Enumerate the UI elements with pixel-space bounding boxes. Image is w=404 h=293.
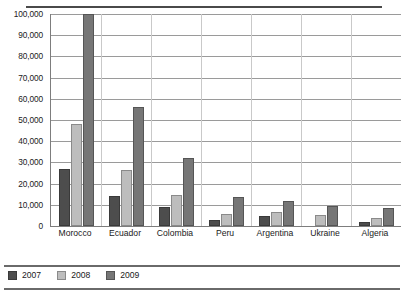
bar-argentina-2008[interactable]: [271, 212, 282, 226]
bar-morocco-2007[interactable]: [59, 169, 70, 226]
plot-area: [50, 14, 401, 227]
y-axis-tick-label: 40,000: [18, 136, 43, 146]
legend-swatch-icon-2007: [8, 271, 17, 280]
legend-label-2008: 2008: [71, 270, 90, 280]
y-axis-tick-label: 80,000: [18, 51, 43, 61]
x-axis-label-morocco: Morocco: [50, 228, 100, 238]
bar-colombia-2008[interactable]: [171, 195, 182, 226]
x-axis-label-argentina: Argentina: [250, 228, 300, 238]
bar-colombia-2007[interactable]: [159, 207, 170, 226]
bar-group-algeria: [351, 14, 401, 226]
bar-morocco-2009[interactable]: [83, 14, 94, 226]
bar-group-morocco: [51, 14, 101, 226]
x-axis-label-ecuador: Ecuador: [100, 228, 150, 238]
bar-ukraine-2008[interactable]: [315, 215, 326, 226]
legend-item-2007[interactable]: 2007: [8, 270, 41, 280]
bar-ukraine-2009[interactable]: [327, 206, 338, 226]
x-axis-label-ukraine: Ukraine: [300, 228, 350, 238]
x-axis-label-algeria: Algeria: [350, 228, 400, 238]
legend-label-2009: 2009: [120, 270, 139, 280]
bar-peru-2009[interactable]: [233, 197, 244, 226]
bar-group-argentina: [251, 14, 301, 226]
bar-morocco-2008[interactable]: [71, 124, 82, 226]
bar-peru-2007[interactable]: [209, 220, 220, 226]
chart-legend: 200720082009: [8, 270, 139, 280]
bar-ecuador-2007[interactable]: [109, 196, 120, 226]
bar-ecuador-2009[interactable]: [133, 107, 144, 226]
bar-algeria-2007[interactable]: [359, 222, 370, 226]
legend-swatch-icon-2009: [106, 271, 115, 280]
x-axis-label-peru: Peru: [200, 228, 250, 238]
y-axis-tick-label: 60,000: [18, 94, 43, 104]
bar-groups: [51, 14, 401, 226]
y-axis-tick-label: 20,000: [18, 179, 43, 189]
bar-group-peru: [201, 14, 251, 226]
bar-group-ecuador: [101, 14, 151, 226]
bar-chart-figure: 100,00090,00080,00070,00060,00050,00040,…: [0, 0, 404, 293]
legend-item-2009[interactable]: 2009: [106, 270, 139, 280]
bar-algeria-2009[interactable]: [383, 208, 394, 226]
x-axis-label-colombia: Colombia: [150, 228, 200, 238]
plot-wrapper: 100,00090,00080,00070,00060,00050,00040,…: [0, 14, 404, 240]
bar-algeria-2008[interactable]: [371, 218, 382, 226]
bar-ecuador-2008[interactable]: [121, 170, 132, 226]
legend-label-2007: 2007: [22, 270, 41, 280]
y-axis-tick-label: 90,000: [18, 30, 43, 40]
y-axis-tick-label: 10,000: [18, 200, 43, 210]
y-axis-tick-label: 30,000: [18, 157, 43, 167]
bar-peru-2008[interactable]: [221, 214, 232, 226]
y-axis-tick-labels: 100,00090,00080,00070,00060,00050,00040,…: [0, 14, 46, 226]
bar-colombia-2009[interactable]: [183, 158, 194, 226]
legend-item-2008[interactable]: 2008: [57, 270, 90, 280]
y-axis-tick-label: 70,000: [18, 73, 43, 83]
legend-bottom-rule: [4, 288, 400, 290]
legend-swatch-icon-2008: [57, 271, 66, 280]
bar-argentina-2007[interactable]: [259, 216, 270, 226]
bar-group-colombia: [151, 14, 201, 226]
bar-argentina-2009[interactable]: [283, 201, 294, 226]
y-axis-tick-label: 100,000: [14, 9, 43, 19]
bar-group-ukraine: [301, 14, 351, 226]
x-axis-category-labels: MoroccoEcuadorColombiaPeruArgentinaUkrai…: [50, 228, 400, 238]
top-divider-rule: [26, 6, 382, 8]
legend-top-rule: [4, 265, 400, 267]
y-axis-tick-label: 50,000: [18, 115, 43, 125]
y-axis-tick-label: 0: [38, 221, 43, 231]
